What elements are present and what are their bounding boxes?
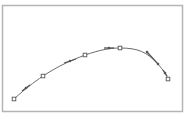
handle-dot — [146, 51, 149, 54]
anchor-square-marker — [166, 77, 170, 81]
anchor-square-marker — [83, 53, 87, 57]
handle-dot — [69, 60, 72, 63]
diagram-frame — [3, 6, 183, 112]
handle-dot — [108, 47, 111, 50]
handle-dot — [164, 72, 167, 75]
anchor-square-marker — [41, 74, 45, 78]
anchor-square-marker — [118, 46, 122, 50]
handle-dot — [157, 63, 160, 66]
curve-diagram — [0, 0, 185, 119]
anchor-square-marker — [12, 97, 16, 101]
handle-dot — [25, 87, 28, 90]
